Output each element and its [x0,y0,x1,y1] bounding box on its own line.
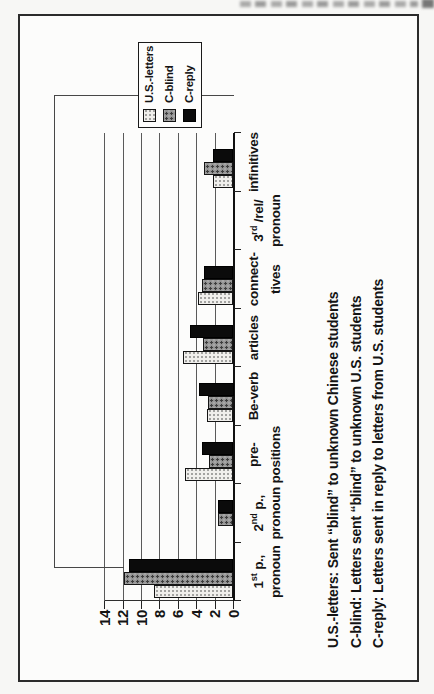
value-tick-label: 4 [188,610,206,644]
legend-label-us-letters: U.S.-letters [142,46,157,103]
category-tick [234,133,241,134]
value-axis-line [105,601,234,602]
category-tick [234,308,241,309]
category-label-line2: positions [266,420,286,490]
page-header-cropped-text [240,0,434,9]
ordinal-superscript: st [249,573,259,581]
bar-us-letters [185,468,234,481]
bar-c-reply [218,501,234,514]
value-tick [104,601,105,609]
bar-us-letters [207,410,234,423]
bar-c-reply [199,384,234,397]
bar-c-reply [202,442,233,455]
footnote-us-letters: U.S.-letters: Sent “blind” to unknown Ch… [322,279,345,648]
legend-label-c-reply: C-reply [182,65,197,103]
bar-c-blind [203,338,233,351]
value-tick-label: 12 [114,610,132,644]
ordinal-superscript: nd [249,513,259,524]
value-tick-label: 10 [133,610,151,644]
value-tick [233,601,234,609]
category-tick [234,542,241,543]
legend-swatch-c-blind [163,109,176,122]
value-tick [123,601,124,609]
value-tick [215,601,216,609]
bar-c-reply [204,267,233,280]
value-tick-label: 0 [225,610,243,644]
legend: U.S.-lettersC-blindC-reply [138,42,202,128]
category-label: infinitives [244,127,264,197]
value-tick-label: 2 [206,610,224,644]
bar-c-blind [204,163,233,176]
value-tick [159,601,160,609]
value-tick [178,601,179,609]
bar-c-blind [208,397,234,410]
value-gridline [104,133,105,601]
value-gridline [178,133,179,601]
bar-c-reply [129,559,234,572]
cropped-text-mark [422,0,434,8]
footnote-c-reply: C-reply: Letters sent in reply to letter… [367,279,390,648]
figure-border: U.S.-letters: Sent “blind” to unknown Ch… [18,14,419,682]
category-tick [234,191,241,192]
plot-frame-top [54,95,55,567]
value-gridline [123,133,124,601]
value-gridline [196,133,197,601]
legend-swatch-c-reply [183,109,196,122]
bar-c-reply [213,150,233,163]
category-tick [234,425,241,426]
plot-frame-left-stub [54,567,124,568]
bar-us-letters [213,176,233,189]
category-tick [234,250,241,251]
value-tick-label: 8 [151,610,169,644]
value-gridline [159,133,160,601]
bar-us-letters [154,585,233,598]
cropped-text-blur [240,1,418,7]
category-label-line2: pronoun [266,186,286,256]
bar-c-blind [218,514,234,527]
bar-c-blind [124,572,233,585]
bar-c-reply [190,325,233,338]
value-tick [196,601,197,609]
bar-us-letters [183,351,234,364]
category-tick [234,484,241,485]
bar-us-letters [198,293,234,306]
scanned-page: U.S.-letters: Sent “blind” to unknown Ch… [0,0,434,694]
rotated-bar-chart: U.S.-letters: Sent “blind” to unknown Ch… [20,16,417,680]
value-tick [141,601,142,609]
category-tick [234,601,241,602]
ordinal-superscript: rd [249,226,259,235]
footnote-c-blind: C-blind: Letters sent “blind” to unknown… [345,279,368,648]
value-gridline [141,133,142,601]
category-tick [234,367,241,368]
legend-footnotes: U.S.-letters: Sent “blind” to unknown Ch… [322,279,390,648]
legend-label-c-blind: C-blind [162,66,177,104]
legend-swatch-us-letters [143,109,156,122]
bar-c-blind [202,280,233,293]
bar-c-blind [209,455,234,468]
value-tick-label: 6 [169,610,187,644]
value-tick-label: 14 [96,610,114,644]
value-gridline [215,133,216,601]
